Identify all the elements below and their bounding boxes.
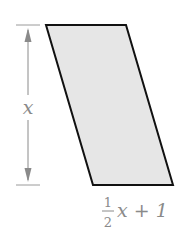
parallelogram-shape — [46, 25, 173, 185]
height-label: x — [23, 96, 34, 118]
parallelogram-diagram: x 1 2 x + 1 — [0, 0, 183, 239]
arrow-up-icon — [25, 28, 32, 42]
base-label-rest: x + 1 — [117, 199, 168, 221]
base-label-denominator: 2 — [104, 215, 112, 230]
base-label-numerator: 1 — [104, 195, 112, 210]
arrow-down-icon — [25, 168, 32, 182]
